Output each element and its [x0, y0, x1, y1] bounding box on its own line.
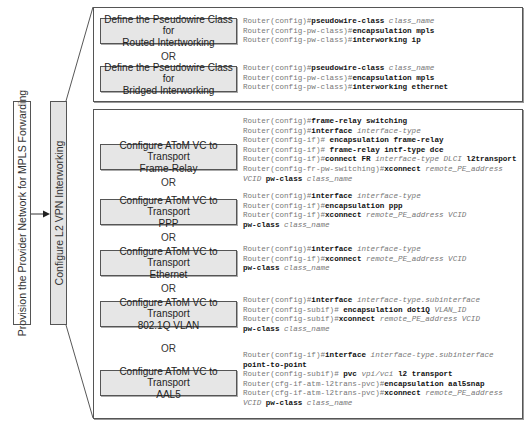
code-line: Router(config-if)# frame-relay intf-type… — [243, 146, 516, 156]
provision-mpls-label: Provision the Provider Network for MPLS … — [16, 90, 28, 336]
step-line2: Ethernet — [101, 269, 236, 281]
code-line: Router(config-pw-class)#interworking ip — [243, 36, 434, 46]
step-line1: Configure AToM VC to Transport — [101, 297, 236, 320]
code-line: Router(config-subif)# pvc vpi/vci l2 tra… — [243, 370, 503, 380]
code-line: Router(config)#interface interface-type.… — [243, 296, 480, 306]
step-atom-frame-relay: Configure AToM VC to Transport Frame-Rel… — [100, 144, 237, 170]
code-line: Router(config-if)#xconnect remote_PE_add… — [243, 211, 466, 221]
code-line: Router(cfg-if-atm-l2trans-pvc)#encapsula… — [243, 380, 503, 390]
code-line: Router(config-if)#connect FR interface-t… — [243, 155, 516, 165]
code-line: Router(config-if)#interface interface-ty… — [243, 351, 503, 361]
arrow-right-icon — [31, 210, 50, 218]
or-separator: OR — [100, 283, 237, 294]
step-line1: Define the Pseudowire Class for — [101, 14, 236, 37]
or-separator: OR — [100, 232, 237, 243]
or-separator: OR — [100, 51, 237, 62]
code-line: Router(config-fr-pw-switching)#xconnect … — [243, 165, 516, 175]
step-line2: Bridged Interworking — [101, 85, 236, 97]
code-line: point-to-point — [243, 361, 503, 371]
or-separator: OR — [100, 177, 237, 188]
step-line2: AAL5 — [101, 389, 236, 401]
step-define-pw-routed: Define the Pseudowire Class for Routed I… — [100, 18, 237, 44]
code-line: Router(config-pw-class)#interworking eth… — [243, 83, 448, 93]
code-line: Router(config-if)#encapsulation ppp — [243, 202, 466, 212]
code-line: Router(config)#frame-relay switching — [243, 117, 516, 127]
step-atom-aal5: Configure AToM VC to Transport AAL5 — [100, 370, 237, 396]
code-block-8021q-vlan: Router(config)#interface interface-type.… — [243, 296, 480, 334]
code-line: Router(cfg-if-atm-l2trans-pvc)#xconnect … — [243, 389, 503, 399]
step-define-pw-bridged: Define the Pseudowire Class for Bridged … — [100, 66, 237, 92]
code-line: Router(config-subif)#xconnect remote_PE_… — [243, 315, 480, 325]
step-line1: Configure AToM VC to Transport — [101, 246, 236, 269]
code-line: Router(config)#pseudowire-class class_na… — [243, 64, 448, 74]
code-line: Router(config-pw-class)#encapsulation mp… — [243, 74, 448, 84]
code-line: Router(config-if)# encapsulation frame-r… — [243, 136, 516, 146]
step-line1: Configure AToM VC to Transport — [101, 140, 236, 163]
provision-mpls-box: Provision the Provider Network for MPLS … — [13, 101, 31, 325]
step-line2: Frame-Relay — [101, 163, 236, 175]
code-block-aal5: Router(config-if)#interface interface-ty… — [243, 351, 503, 409]
code-block-frame-relay: Router(config)#frame-relay switchingRout… — [243, 117, 516, 184]
code-line: Router(config-pw-class)#encapsulation mp… — [243, 27, 434, 37]
code-block-pw-bridged: Router(config)#pseudowire-class class_na… — [243, 64, 448, 93]
step-line1: Define the Pseudowire Class for — [101, 62, 236, 85]
code-line: Router(config-subif)# encapsulation dot1… — [243, 306, 480, 316]
code-block-ppp: Router(config)#interface interface-typeR… — [243, 192, 466, 230]
code-line: VCID pw-class class_name — [243, 175, 516, 185]
code-block-pw-routed: Router(config)#pseudowire-class class_na… — [243, 17, 434, 46]
step-line2: 802.1Q VLAN — [101, 320, 236, 332]
step-line2: Routed Intertworking — [101, 37, 236, 49]
step-atom-ppp: Configure AToM VC to Transport PPP — [100, 199, 237, 225]
step-atom-8021q-vlan: Configure AToM VC to Transport 802.1Q VL… — [100, 301, 237, 327]
configure-l2vpn-box: Configure L2 VPN Interworking — [50, 101, 67, 325]
or-separator: OR — [100, 343, 237, 354]
step-line1: Configure AToM VC to Transport — [101, 195, 236, 218]
code-line: VCID pw-class class_name — [243, 399, 503, 409]
step-atom-ethernet: Configure AToM VC to Transport Ethernet — [100, 250, 237, 276]
code-line: pw-class class_name — [243, 264, 466, 274]
step-line2: PPP — [101, 218, 236, 230]
configure-l2vpn-label: Configure L2 VPN Interworking — [53, 141, 65, 286]
code-line: pw-class class_name — [243, 325, 480, 335]
code-line: Router(config)#interface interface-type — [243, 127, 516, 137]
code-line: Router(config)#interface interface-type — [243, 245, 466, 255]
step-line1: Configure AToM VC to Transport — [101, 366, 236, 389]
code-block-ethernet: Router(config)#interface interface-typeR… — [243, 245, 466, 274]
code-line: pw-class class_name — [243, 221, 466, 231]
code-line: Router(config)#interface interface-type — [243, 192, 466, 202]
code-line: Router(config)#pseudowire-class class_na… — [243, 17, 434, 27]
code-line: Router(config-if)#xconnect remote_PE_add… — [243, 255, 466, 265]
